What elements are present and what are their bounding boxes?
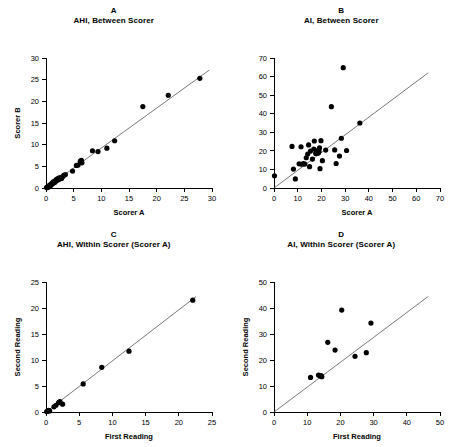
- y-tick-label: 30: [258, 128, 266, 137]
- x-tick-label: 25: [208, 418, 216, 427]
- regression-line: [46, 296, 196, 411]
- data-point: [197, 76, 202, 81]
- x-tick-label: 30: [208, 194, 216, 203]
- data-point: [95, 149, 100, 154]
- y-tick-label: 20: [258, 355, 266, 364]
- data-point: [323, 148, 328, 153]
- data-point: [140, 104, 145, 109]
- x-tick-label: 0: [271, 418, 275, 427]
- data-point: [47, 408, 52, 413]
- x-tick-label: 0: [44, 194, 48, 203]
- data-point: [318, 138, 323, 143]
- y-tick-label: 25: [31, 277, 39, 286]
- y-tick-label: 50: [258, 277, 266, 286]
- panel-a: A AHI, Between Scorer 051015202530051015…: [0, 0, 228, 224]
- x-tick-label: 70: [435, 194, 443, 203]
- x-tick-label: 5: [72, 194, 76, 203]
- x-axis-title: Scorer A: [114, 208, 146, 217]
- plot-area-d: 0102030405001020304050First ReadingSecon…: [241, 277, 444, 440]
- x-tick-label: 0: [44, 418, 48, 427]
- x-tick-label: 20: [152, 194, 160, 203]
- data-point: [112, 138, 117, 143]
- data-point: [306, 142, 311, 147]
- x-tick-label: 5: [77, 418, 81, 427]
- data-point: [333, 161, 338, 166]
- regression-line: [274, 296, 428, 412]
- data-point: [290, 166, 295, 171]
- data-point: [90, 148, 95, 153]
- data-point: [316, 145, 321, 150]
- y-tick-label: 5: [35, 162, 39, 171]
- y-tick-label: 30: [258, 329, 266, 338]
- x-tick-label: 15: [141, 418, 149, 427]
- x-tick-label: 20: [175, 418, 183, 427]
- data-point: [63, 172, 68, 177]
- data-point: [339, 307, 344, 312]
- data-point: [126, 348, 131, 353]
- y-tick-label: 50: [258, 91, 266, 100]
- x-tick-label: 10: [108, 418, 116, 427]
- y-tick-label: 0: [35, 184, 39, 193]
- panel-b-plot: 010203040506070010203040506070Scorer A: [228, 0, 455, 224]
- x-tick-label: 50: [388, 194, 396, 203]
- data-point: [317, 166, 322, 171]
- x-tick-label: 60: [412, 194, 420, 203]
- y-tick-label: 0: [35, 407, 39, 416]
- panel-d: D AI, Within Scorer (Scorer A) 010203040…: [228, 224, 455, 447]
- y-tick-label: 10: [258, 165, 266, 174]
- y-tick-label: 60: [258, 72, 266, 81]
- data-point: [363, 350, 368, 355]
- data-point: [343, 148, 348, 153]
- y-tick-label: 0: [262, 184, 266, 193]
- y-tick-label: 25: [31, 75, 39, 84]
- x-tick-label: 15: [125, 194, 133, 203]
- data-point: [292, 176, 297, 181]
- figure-panel-grid: A AHI, Between Scorer 051015202530051015…: [0, 0, 455, 447]
- data-point: [311, 138, 316, 143]
- data-point: [70, 169, 75, 174]
- x-tick-label: 40: [402, 418, 410, 427]
- data-point: [319, 158, 324, 163]
- regression-line: [274, 73, 428, 188]
- panel-d-plot: 0102030405001020304050First ReadingSecon…: [228, 224, 455, 447]
- data-point: [190, 297, 195, 302]
- x-tick-label: 30: [340, 194, 348, 203]
- data-point: [328, 104, 333, 109]
- plot-area-b: 010203040506070010203040506070Scorer A: [258, 54, 444, 217]
- data-point: [60, 401, 65, 406]
- y-tick-label: 30: [31, 54, 39, 63]
- y-tick-label: 20: [31, 97, 39, 106]
- data-point: [271, 173, 276, 178]
- y-tick-label: 40: [258, 303, 266, 312]
- y-tick-label: 10: [258, 381, 266, 390]
- data-point: [81, 381, 86, 386]
- data-point: [104, 146, 109, 151]
- data-point: [289, 144, 294, 149]
- data-point: [302, 161, 307, 166]
- panel-b: B AI, Between Scorer 0102030405060700102…: [228, 0, 455, 224]
- x-tick-label: 20: [336, 418, 344, 427]
- x-tick-label: 30: [369, 418, 377, 427]
- data-point: [368, 320, 373, 325]
- y-tick-label: 20: [258, 147, 266, 156]
- data-point: [332, 347, 337, 352]
- x-tick-label: 25: [180, 194, 188, 203]
- data-point: [332, 147, 337, 152]
- plot-area-a: 051015202530051015202530Scorer AScorer B: [13, 54, 216, 217]
- x-tick-label: 20: [317, 194, 325, 203]
- x-tick-label: 10: [97, 194, 105, 203]
- data-point: [352, 353, 357, 358]
- data-point: [357, 120, 362, 125]
- y-axis-title: Scorer B: [13, 107, 22, 139]
- y-tick-label: 70: [258, 54, 266, 63]
- x-tick-label: 10: [303, 418, 311, 427]
- y-tick-label: 10: [31, 355, 39, 364]
- x-tick-label: 40: [364, 194, 372, 203]
- y-tick-label: 10: [31, 140, 39, 149]
- panel-c: C AHI, Within Scorer (Scorer A) 05101520…: [0, 224, 228, 447]
- data-point: [307, 374, 312, 379]
- x-axis-title: First Reading: [333, 432, 381, 441]
- data-point: [298, 144, 303, 149]
- x-tick-label: 0: [271, 194, 275, 203]
- data-point: [319, 374, 324, 379]
